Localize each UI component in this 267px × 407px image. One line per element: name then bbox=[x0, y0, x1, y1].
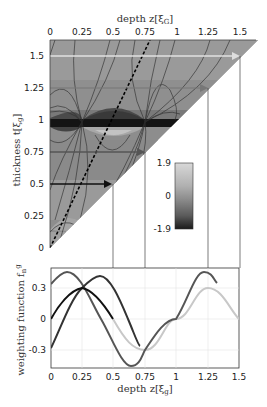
svg-text:1: 1 bbox=[174, 27, 180, 37]
svg-text:0: 0 bbox=[38, 243, 44, 253]
svg-text:1.25: 1.25 bbox=[198, 27, 218, 37]
top-y-axis-label: thickness t[ξg] bbox=[11, 113, 24, 186]
svg-text:0.5: 0.5 bbox=[30, 179, 44, 189]
bottom-y-axis-label: weighting function fng bbox=[14, 264, 28, 376]
svg-text:0.3: 0.3 bbox=[32, 283, 46, 293]
svg-text:1.25: 1.25 bbox=[24, 83, 44, 93]
figure-svg: 0 0.25 0.5 0.75 1 1.25 1.5 depth z[ξG] 0… bbox=[0, 0, 267, 407]
top-x-axis-label: depth z[ξG] bbox=[117, 13, 174, 26]
svg-text:0.5: 0.5 bbox=[106, 372, 120, 382]
svg-text:0: 0 bbox=[47, 27, 53, 37]
svg-text:0.25: 0.25 bbox=[24, 211, 44, 221]
svg-text:1.5: 1.5 bbox=[232, 372, 246, 382]
svg-text:0.75: 0.75 bbox=[24, 147, 44, 157]
svg-text:0: 0 bbox=[165, 191, 171, 201]
svg-text:0.5: 0.5 bbox=[106, 27, 120, 37]
svg-text:-0.3: -0.3 bbox=[28, 345, 46, 355]
figure: 0 0.25 0.5 0.75 1 1.25 1.5 depth z[ξG] 0… bbox=[0, 0, 267, 407]
top-x-ticks: 0 0.25 0.5 0.75 1 1.25 1.5 bbox=[47, 27, 247, 37]
bottom-x-axis-label: depth z[ξg] bbox=[117, 383, 173, 396]
svg-text:1: 1 bbox=[38, 115, 44, 125]
svg-text:0.75: 0.75 bbox=[135, 27, 155, 37]
svg-text:1.25: 1.25 bbox=[198, 372, 218, 382]
svg-text:-1.9: -1.9 bbox=[153, 224, 171, 234]
svg-text:0: 0 bbox=[48, 372, 54, 382]
svg-text:0: 0 bbox=[40, 314, 46, 324]
svg-text:1.9: 1.9 bbox=[157, 158, 172, 168]
bottom-x-ticks: 0 0.25 0.5 0.75 1 1.25 1.5 bbox=[48, 372, 246, 382]
svg-text:1.5: 1.5 bbox=[30, 51, 44, 61]
weighting-function-panel: 0 0.25 0.5 0.75 1 1.25 1.5 depth z[ξg] 0… bbox=[14, 264, 246, 396]
top-y-ticks: 0 0.25 0.5 0.75 1 1.25 1.5 bbox=[24, 51, 44, 253]
colorbar: 1.9 0 -1.9 bbox=[153, 158, 193, 234]
svg-text:0.25: 0.25 bbox=[72, 27, 92, 37]
heatmap-field bbox=[50, 40, 260, 252]
svg-text:1.5: 1.5 bbox=[233, 27, 247, 37]
svg-text:0.25: 0.25 bbox=[72, 372, 92, 382]
svg-text:0.75: 0.75 bbox=[135, 372, 155, 382]
svg-text:1: 1 bbox=[173, 372, 179, 382]
bottom-y-ticks: 0.3 0 -0.3 bbox=[28, 283, 46, 355]
